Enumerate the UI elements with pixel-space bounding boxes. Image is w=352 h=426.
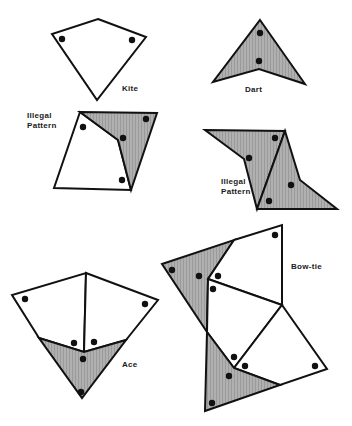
illegal-pattern-1-label-line1: Illegal (27, 111, 57, 121)
ace-shape (12, 273, 158, 398)
illegal-pattern-2-label-line1: Illegal (221, 177, 251, 187)
illegal-pattern-2-label: Illegal Pattern (221, 177, 251, 197)
kite-label: Kite (122, 84, 138, 94)
illegal-pattern-1-label: Illegal Pattern (27, 111, 57, 131)
bow-tie-label: Bow-tie (291, 262, 322, 272)
illegal-pattern-2-label-line2: Pattern (221, 187, 251, 197)
illegal-pattern-1 (54, 112, 157, 190)
ace-label: Ace (122, 360, 138, 370)
dart-label: Dart (245, 85, 262, 95)
dart-shape (213, 20, 305, 84)
illegal-pattern-1-label-line2: Pattern (27, 121, 57, 131)
bow-tie-shape (162, 225, 327, 411)
penrose-diagram (0, 0, 352, 426)
illegal-pattern-2 (205, 130, 337, 209)
